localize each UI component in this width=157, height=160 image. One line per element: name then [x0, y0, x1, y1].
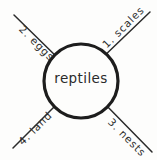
diagram-canvas: reptiles 1. scales 2. eggs 3. nests 4. l… [0, 0, 157, 160]
center-topic-label: reptiles [44, 70, 118, 86]
